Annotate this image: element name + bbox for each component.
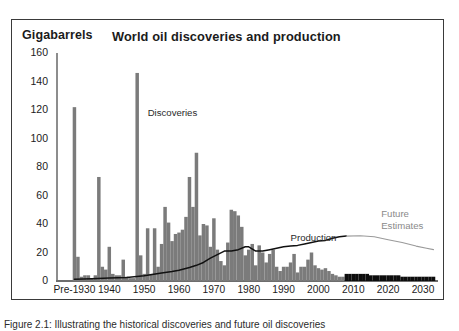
bar <box>174 234 177 281</box>
y-tick-20: 20 <box>14 246 48 258</box>
bar <box>407 277 410 281</box>
y-axis-title: Gigabarrels <box>22 28 93 42</box>
bar <box>188 177 191 281</box>
bar <box>219 261 222 281</box>
bar <box>418 277 421 281</box>
bar <box>97 177 100 281</box>
bar <box>334 275 337 281</box>
bar <box>379 275 382 281</box>
annotation-line: Discoveries <box>148 107 198 118</box>
bar <box>191 207 194 281</box>
bar <box>160 244 163 281</box>
bar <box>104 270 107 281</box>
bar <box>223 265 226 281</box>
x-tick-2030: 2030 <box>389 284 457 295</box>
series-production-future-estimate <box>346 236 433 250</box>
series-discoveries-future-estimate <box>345 274 436 281</box>
bar <box>341 277 344 281</box>
bar <box>282 267 285 281</box>
y-tick-40: 40 <box>14 217 48 229</box>
bar <box>237 215 240 281</box>
annotation-production: Production <box>291 232 337 243</box>
bar <box>313 265 316 281</box>
y-tick-160: 160 <box>14 46 48 58</box>
bar <box>327 271 330 281</box>
bar <box>254 265 257 281</box>
bar <box>128 278 131 281</box>
bar <box>383 275 386 281</box>
bar <box>226 243 229 281</box>
bar <box>163 207 166 281</box>
bar <box>352 274 355 281</box>
bar <box>376 275 379 281</box>
bar <box>132 278 135 281</box>
bar <box>230 210 233 281</box>
bar <box>310 253 313 282</box>
bar <box>202 224 205 281</box>
bar <box>184 217 187 281</box>
bar <box>73 107 76 281</box>
bar <box>108 247 111 281</box>
bar <box>278 271 281 281</box>
bar <box>414 277 417 281</box>
bar <box>411 277 414 281</box>
bar <box>285 267 288 281</box>
bar <box>393 275 396 281</box>
bar <box>212 218 215 281</box>
bar <box>373 275 376 281</box>
bar <box>306 260 309 281</box>
bar <box>421 277 424 281</box>
bar <box>299 267 302 281</box>
chart-title: World oil discoveries and production <box>112 29 341 44</box>
chart-canvas <box>57 53 437 281</box>
annotation-line: Future <box>381 208 423 220</box>
bar <box>428 277 431 281</box>
annotation-future-estimates: FutureEstimates <box>381 208 423 231</box>
series-discoveries-historical <box>73 73 345 281</box>
bar <box>348 274 351 281</box>
y-tick-100: 100 <box>14 132 48 144</box>
bar <box>390 275 393 281</box>
annotation-discoveries: Discoveries <box>148 107 198 118</box>
bar <box>139 255 142 281</box>
bar <box>400 277 403 281</box>
bar <box>404 277 407 281</box>
bar <box>271 250 274 281</box>
bar <box>359 274 362 281</box>
bar <box>324 268 327 281</box>
bar <box>198 235 201 281</box>
bar <box>292 254 295 281</box>
bar <box>195 153 198 281</box>
bar <box>386 275 389 281</box>
bar <box>170 241 173 281</box>
bar <box>355 274 358 281</box>
bar <box>320 270 323 281</box>
bar <box>303 267 306 281</box>
bar <box>296 272 299 281</box>
bar <box>233 211 236 281</box>
bar <box>366 274 369 281</box>
bar <box>275 267 278 281</box>
y-tick-120: 120 <box>14 103 48 115</box>
bar <box>432 277 435 281</box>
plot-area <box>57 53 437 281</box>
bar <box>247 250 250 281</box>
annotation-line: Estimates <box>381 220 423 232</box>
bar <box>338 277 341 281</box>
bar <box>289 262 292 281</box>
bar <box>244 255 247 281</box>
bar <box>362 274 365 281</box>
bar <box>369 275 372 281</box>
bar <box>177 233 180 281</box>
bar <box>205 225 208 281</box>
bar <box>153 228 156 281</box>
bar <box>345 274 348 281</box>
bar <box>425 277 428 281</box>
bar <box>209 247 212 281</box>
bar <box>331 274 334 281</box>
bar <box>268 254 271 281</box>
y-tick-60: 60 <box>14 189 48 201</box>
figure-caption: Figure 2.1: Illustrating the historical … <box>4 319 459 331</box>
bar <box>240 227 243 281</box>
bar <box>264 262 267 281</box>
